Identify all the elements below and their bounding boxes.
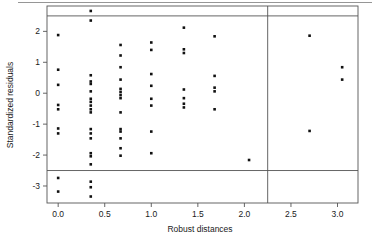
data-point	[89, 186, 92, 189]
data-point	[89, 180, 92, 183]
data-point	[150, 41, 153, 44]
data-point	[150, 49, 153, 52]
data-point	[89, 83, 92, 86]
data-point	[89, 163, 92, 166]
data-point	[119, 44, 122, 47]
data-point	[213, 86, 216, 89]
x-tick-label: 1.0	[145, 209, 157, 219]
data-point	[89, 74, 92, 77]
data-point	[57, 108, 60, 111]
data-point	[89, 19, 92, 22]
data-point	[89, 97, 92, 100]
data-point	[89, 128, 92, 131]
data-point	[119, 54, 122, 57]
data-point	[150, 130, 153, 133]
y-tick-label: -3	[32, 181, 40, 191]
data-point	[183, 48, 186, 51]
data-point	[183, 88, 186, 91]
data-point	[119, 111, 122, 114]
data-point	[119, 88, 122, 91]
data-point	[183, 52, 186, 55]
x-tick-label: 2.0	[238, 209, 250, 219]
data-point	[248, 159, 251, 162]
data-point	[150, 73, 153, 76]
data-point	[57, 104, 60, 107]
data-point	[57, 68, 60, 71]
data-point	[89, 10, 92, 13]
data-point	[150, 97, 153, 100]
data-point	[89, 108, 92, 111]
data-point	[89, 104, 92, 107]
data-point	[119, 78, 122, 81]
data-point	[119, 97, 122, 100]
data-point	[57, 132, 60, 135]
data-point	[341, 78, 344, 81]
x-axis-title: Robust distances	[167, 224, 232, 234]
data-point	[183, 97, 186, 100]
data-point	[183, 102, 186, 105]
data-point	[183, 106, 186, 109]
data-point	[119, 147, 122, 150]
x-tick-label: 1.5	[192, 209, 204, 219]
data-point	[119, 66, 122, 69]
y-tick-label: -2	[32, 150, 40, 160]
data-point	[57, 127, 60, 130]
data-point	[89, 137, 92, 140]
data-point	[341, 66, 344, 69]
data-point	[119, 137, 122, 140]
x-tick-label: 0.0	[52, 209, 64, 219]
data-point	[119, 130, 122, 133]
data-point	[150, 84, 153, 87]
data-point	[57, 190, 60, 193]
data-point	[89, 132, 92, 135]
y-tick-label: -1	[32, 119, 40, 129]
data-point	[150, 104, 153, 107]
data-point	[119, 154, 122, 157]
data-point	[57, 34, 60, 37]
data-point	[119, 91, 122, 94]
y-tick-label: 0	[35, 88, 40, 98]
data-point	[89, 90, 92, 93]
data-point	[57, 177, 60, 180]
x-tick-label: 3.0	[332, 209, 344, 219]
data-point	[89, 101, 92, 104]
data-point	[119, 94, 122, 97]
data-point	[57, 84, 60, 87]
y-axis-title: Standardized residuals	[5, 62, 15, 148]
data-point	[183, 26, 186, 29]
data-point	[89, 195, 92, 198]
y-tick-label: 2	[35, 26, 40, 36]
x-tick-label: 0.5	[99, 209, 111, 219]
scatter-plot-svg: 0.00.51.01.52.02.53.0210-1-2-3 Robust di…	[0, 0, 374, 242]
data-point	[150, 152, 153, 155]
y-tick-label: 1	[35, 57, 40, 67]
data-point	[308, 34, 311, 37]
data-point	[213, 75, 216, 78]
data-point	[89, 111, 92, 114]
data-point	[213, 108, 216, 111]
data-point	[89, 152, 92, 155]
data-point	[89, 80, 92, 83]
data-point	[213, 35, 216, 38]
data-point	[308, 130, 311, 133]
x-tick-label: 2.5	[285, 209, 297, 219]
data-point	[119, 128, 122, 131]
data-point	[213, 90, 216, 93]
plot-background	[0, 0, 374, 242]
data-point	[89, 155, 92, 158]
plot-root: 0.00.51.01.52.02.53.0210-1-2-3 Robust di…	[0, 0, 374, 242]
